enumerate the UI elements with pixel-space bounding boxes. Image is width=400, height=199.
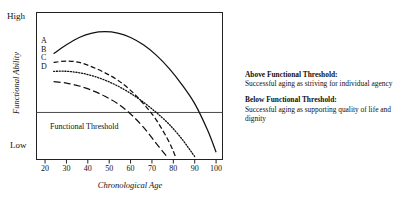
annotation-below-heading: Below Functional Threshold:: [245, 95, 397, 104]
annotations: Above Functional Threshold: Successful a…: [245, 70, 397, 130]
series-curves: [54, 32, 216, 157]
x-tick-label: 50: [99, 164, 119, 173]
x-tick-label: 20: [35, 164, 55, 173]
x-tick-label: 40: [78, 164, 98, 173]
curve-d: [54, 82, 167, 157]
curve-a: [54, 32, 216, 153]
annotation-below-threshold: Below Functional Threshold: Successful a…: [245, 95, 397, 123]
x-tick-label: 60: [121, 164, 141, 173]
plot-frame: [37, 13, 223, 160]
x-tick-label: 80: [163, 164, 183, 173]
annotation-above-heading: Above Functional Threshold:: [245, 70, 397, 79]
curve-c: [54, 71, 195, 156]
x-tick-label: 90: [185, 164, 205, 173]
x-tick-label: 30: [56, 164, 76, 173]
curve-b: [54, 61, 176, 157]
figure-container: High Low Functional Ability Chronologica…: [0, 0, 400, 199]
x-axis-ticks: [45, 160, 216, 164]
x-tick-label: 100: [206, 164, 226, 173]
annotation-below-body: Successful aging as supporting quality o…: [245, 105, 397, 123]
x-tick-label: 70: [142, 164, 162, 173]
annotation-above-body: Successful aging as striving for individ…: [245, 79, 397, 88]
annotation-above-threshold: Above Functional Threshold: Successful a…: [245, 70, 397, 88]
